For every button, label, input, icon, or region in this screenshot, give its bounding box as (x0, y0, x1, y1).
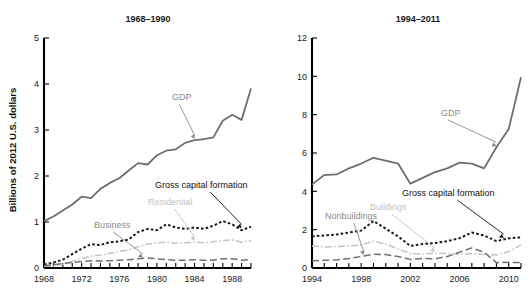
panel-left-series (44, 89, 251, 267)
y-tick-label: 0 (34, 263, 39, 273)
figure-container: Billions of 2012 U.S. dollars 1968–1990 … (0, 0, 529, 305)
panel-right-series (312, 77, 521, 262)
x-tick-label: 1976 (109, 274, 129, 284)
y-tick-label: 2 (34, 171, 39, 181)
x-tick-label: 2010 (499, 274, 519, 284)
panel-left-axes: 012345 (34, 33, 251, 273)
y-tick-label: 0 (302, 263, 307, 273)
panel-left-title: 1968–1990 (125, 14, 170, 24)
annotation-arrowhead-gross-capital-formation (499, 234, 504, 238)
y-tick-label: 4 (34, 79, 39, 89)
y-tick-label: 2 (302, 225, 307, 235)
x-tick-label: 2006 (450, 274, 470, 284)
y-axis-label-group: Billions of 2012 U.S. dollars (7, 88, 18, 213)
annotation-arrow-gross-capital-formation (457, 200, 504, 234)
y-tick-label: 1 (34, 217, 39, 227)
x-tick-label: 1968 (34, 274, 54, 284)
annotation-arrow-buildings (392, 214, 435, 248)
annotation-arrowhead-business (138, 253, 143, 257)
annotation-arrow-gdp (448, 120, 496, 142)
annotation-arrowhead-gdp (191, 134, 195, 139)
panel-right: 1994–2011 024681012 19941998200220062010… (297, 14, 521, 284)
annotation-label-gdp: GDP (441, 108, 461, 118)
annotation-arrow-residential (174, 209, 194, 237)
y-axis-label: Billions of 2012 U.S. dollars (7, 88, 18, 213)
x-tick-label: 1998 (351, 274, 371, 284)
x-tick-label: 2002 (400, 274, 420, 284)
x-tick-label: 1988 (222, 274, 242, 284)
annotation-arrow-gdp (179, 104, 194, 135)
annotation-arrow-nonbuildings (354, 223, 364, 251)
panel-left: 1968–1990 012345 19681972197619801984198… (34, 14, 251, 284)
x-tick-label: 1984 (185, 274, 205, 284)
panel-right-title: 1994–2011 (396, 14, 441, 24)
series-line-buildings (312, 241, 521, 255)
annotation-label-nonbuildings: Nonbuildings (325, 211, 378, 221)
annotation-label-gross-capital-formation: Gross capital formation (155, 180, 248, 190)
x-tick-label: 1994 (302, 274, 322, 284)
x-tick-label: 1980 (147, 274, 167, 284)
annotation-arrowhead-nonbuildings (360, 250, 364, 255)
annotation-label-gdp: GDP (172, 92, 192, 102)
annotation-arrow-business (113, 232, 143, 254)
y-tick-label: 3 (34, 125, 39, 135)
panel-right-annotations: 19941998200220062010GDPGross capital for… (302, 108, 519, 284)
series-line-nonbuildings (312, 248, 521, 263)
panel-left-annotations: 196819721976198019841988GDPGross capital… (34, 92, 248, 284)
annotation-label-gross-capital-formation: Gross capital formation (402, 188, 495, 198)
annotation-label-business: Business (94, 220, 131, 230)
series-line-gross-capital-formation (44, 221, 251, 264)
y-tick-label: 5 (34, 33, 39, 43)
annotation-arrowhead-gdp (492, 142, 497, 146)
y-tick-label: 4 (302, 187, 307, 197)
y-tick-label: 10 (297, 72, 307, 82)
annotation-arrow-gross-capital-formation (210, 192, 241, 224)
series-line-gdp (312, 77, 521, 184)
x-tick-label: 1972 (72, 274, 92, 284)
y-tick-label: 12 (297, 33, 307, 43)
y-tick-label: 6 (302, 148, 307, 158)
two-panel-line-chart: Billions of 2012 U.S. dollars 1968–1990 … (0, 0, 529, 305)
annotation-arrowhead-residential (190, 236, 194, 241)
y-tick-label: 8 (302, 110, 307, 120)
annotation-label-residential: Residential (148, 197, 193, 207)
